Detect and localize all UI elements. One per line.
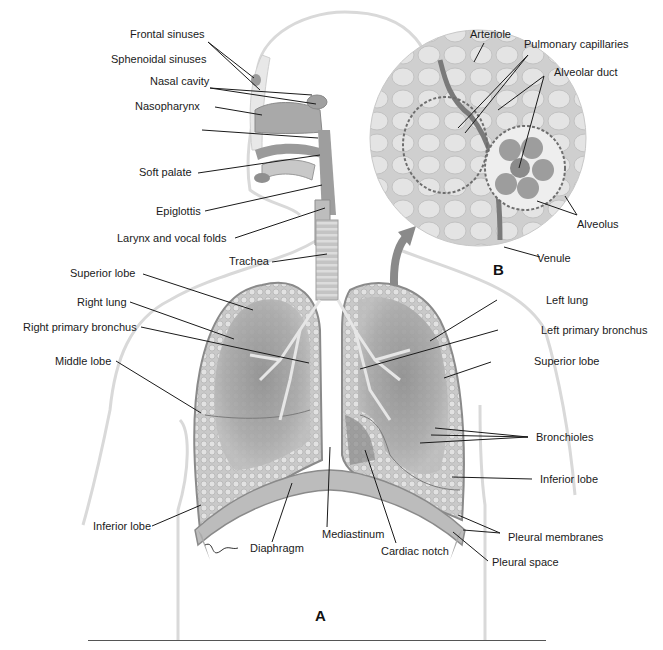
label-right-lung: Right lung [77, 296, 127, 309]
bottom-rule [88, 640, 546, 641]
panel-label-b: B [493, 261, 504, 278]
label-inferior-lobe-left: Inferior lobe [540, 473, 598, 486]
label-mediastinum: Mediastinum [322, 528, 384, 541]
label-sphenoidal-sinuses: Sphenoidal sinuses [111, 53, 206, 66]
label-bronchioles: Bronchioles [536, 431, 593, 444]
label-nasal-cavity: Nasal cavity [150, 75, 209, 88]
label-pulmonary-capillaries: Pulmonary capillaries [524, 38, 629, 51]
label-arteriole: Arteriole [470, 28, 511, 41]
label-left-lung: Left lung [546, 294, 588, 307]
label-right-primary-bronchus: Right primary bronchus [23, 321, 137, 334]
label-alveolus: Alveolus [577, 218, 619, 231]
label-venule: Venule [537, 252, 571, 265]
label-left-primary-bronchus: Left primary bronchus [541, 324, 647, 337]
label-alveolar-duct: Alveolar duct [554, 66, 618, 79]
panel-label-a: A [315, 607, 326, 624]
label-superior-lobe-right: Superior lobe [70, 267, 135, 280]
label-inferior-lobe-right: Inferior lobe [93, 520, 151, 533]
label-epiglottis: Epiglottis [156, 205, 201, 218]
label-soft-palate: Soft palate [139, 166, 192, 179]
label-nasopharynx: Nasopharynx [135, 100, 200, 113]
label-cardiac-notch: Cardiac notch [381, 545, 449, 558]
respiratory-system-diagram: Frontal sinuses Sphenoidal sinuses Nasal… [0, 0, 663, 650]
alveoli-inset [370, 30, 586, 246]
trachea [316, 220, 338, 300]
label-trachea: Trachea [229, 255, 269, 268]
label-middle-lobe: Middle lobe [55, 355, 111, 368]
head-airways [250, 55, 336, 245]
artist-signature [205, 544, 238, 553]
label-superior-lobe-left: Superior lobe [534, 355, 599, 368]
label-pleural-space: Pleural space [492, 556, 559, 569]
label-diaphragm: Diaphragm [250, 542, 304, 555]
label-frontal-sinuses: Frontal sinuses [130, 28, 205, 41]
label-larynx-vocal-folds: Larynx and vocal folds [117, 232, 226, 245]
label-pleural-membranes: Pleural membranes [508, 531, 603, 544]
